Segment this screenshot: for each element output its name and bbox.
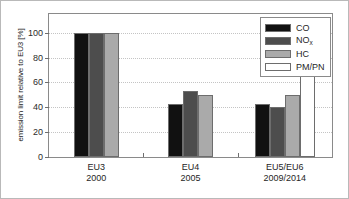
legend-swatch-icon	[265, 37, 291, 45]
y-tick-label-40: 40	[33, 102, 43, 112]
x-group-label-EU3: EU32000	[86, 162, 106, 184]
legend-label: NOx	[296, 35, 313, 46]
y-tick-label-60: 60	[33, 77, 43, 87]
legend-item-pm-pn[interactable]: PM/PN	[265, 60, 326, 73]
legend-label: PM/PN	[296, 62, 325, 72]
y-tick-mark-20	[45, 132, 49, 133]
y-tick-mark-100	[45, 33, 49, 34]
legend-swatch-icon	[265, 24, 291, 32]
x-group-label-name: EU4	[180, 162, 200, 173]
legend-swatch-icon	[265, 50, 291, 58]
y-tick-mark-80	[45, 58, 49, 59]
chart-legend: CONOxHCPM/PN	[260, 17, 331, 77]
x-tick-mark-1	[143, 153, 144, 157]
bar-EU5-EU6-CO	[255, 104, 270, 157]
emission-limits-bar-chart: emission limit relative to EU3 [%] 02040…	[0, 0, 349, 199]
x-group-label-year: 2000	[86, 173, 106, 184]
y-tick-label-20: 20	[33, 127, 43, 137]
legend-label: HC	[296, 49, 309, 59]
y-tick-label-0: 0	[38, 152, 43, 162]
x-group-label-name: EU3	[86, 162, 106, 173]
x-group-label-EU5-EU6: EU5/EU62009/2014	[264, 162, 307, 184]
x-group-label-EU4: EU42005	[180, 162, 200, 184]
x-group-label-year: 2009/2014	[264, 173, 307, 184]
legend-label: CO	[296, 23, 310, 33]
x-tick-mark-2	[238, 153, 239, 157]
legend-label-subscript: x	[310, 39, 313, 46]
bar-EU5-EU6-NOx	[270, 107, 285, 157]
legend-swatch-icon	[265, 63, 291, 71]
legend-item-nox[interactable]: NOx	[265, 34, 326, 47]
bar-EU3-NOx	[89, 33, 104, 157]
bar-EU3-HC	[104, 33, 119, 157]
y-tick-label-80: 80	[33, 53, 43, 63]
x-group-label-name: EU5/EU6	[264, 162, 307, 173]
bar-EU4-CO	[168, 104, 183, 157]
y-tick-label-100: 100	[28, 28, 43, 38]
bar-EU4-NOx	[183, 91, 198, 157]
legend-item-hc[interactable]: HC	[265, 47, 326, 60]
y-tick-mark-40	[45, 107, 49, 108]
bar-EU4-HC	[198, 95, 213, 157]
y-axis-title: emission limit relative to EU3 [%]	[14, 5, 28, 165]
y-tick-mark-0	[45, 157, 49, 158]
x-group-label-year: 2005	[180, 173, 200, 184]
y-tick-mark-60	[45, 82, 49, 83]
bar-EU3-CO	[74, 33, 89, 157]
bar-EU5-EU6-HC	[285, 95, 300, 157]
legend-item-co[interactable]: CO	[265, 21, 326, 34]
